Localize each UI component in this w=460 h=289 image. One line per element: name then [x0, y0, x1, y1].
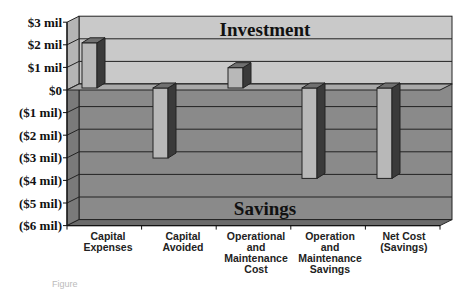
y-tick-label: ($2 mil) [19, 128, 62, 143]
y-tick-label: $0 [49, 83, 62, 98]
y-tick-label: ($6 mil) [19, 218, 62, 233]
x-tick-label: OperationandMaintenanceSavings [298, 230, 362, 275]
bar-net-cost-savings [377, 83, 400, 178]
y-tick-label: ($4 mil) [19, 173, 62, 188]
y-tick-label: $3 mil [28, 15, 63, 30]
y-tick-label: $2 mil [28, 37, 63, 52]
y-tick-label: ($5 mil) [19, 196, 62, 211]
y-tick-label: ($3 mil) [19, 150, 62, 165]
x-axis: CapitalExpensesCapitalAvoidedOperational… [67, 226, 440, 275]
y-axis: $3 mil$2 mil$1 mil$0($1 mil)($2 mil)($3 … [19, 15, 67, 233]
bar-capital-expenses [82, 38, 105, 88]
investment-label: Investment [220, 19, 311, 40]
figure-caption: Figure [52, 279, 78, 289]
bar-capital-avoided [153, 83, 176, 158]
savings-label: Savings [234, 198, 296, 219]
x-tick-label: CapitalAvoided [162, 230, 203, 253]
x-tick-label: CapitalExpenses [83, 230, 132, 253]
floor-plane [67, 220, 452, 226]
x-tick-label: OperationalandMaintenanceCost [224, 230, 288, 275]
bar-operational-and-maintenance-cost [228, 63, 251, 88]
y-tick-label: ($1 mil) [19, 105, 62, 120]
side-wall-upper [67, 16, 79, 90]
y-tick-label: $1 mil [28, 60, 63, 75]
x-tick-label: Net Cost(Savings) [380, 230, 427, 253]
bar-operation-and-maintenance-savings [302, 83, 325, 178]
